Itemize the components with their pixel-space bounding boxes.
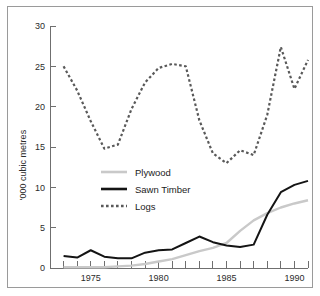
x-tick-label: 1990: [284, 273, 304, 283]
y-tick-label: 5: [40, 223, 45, 233]
chart-figure: 0510152025301975198019851990'000 cubic m…: [0, 0, 320, 296]
line-chart: 0510152025301975198019851990'000 cubic m…: [0, 0, 320, 296]
x-tick-label: 1975: [81, 273, 101, 283]
series-line-logs: [64, 47, 308, 163]
chart-legend: PlywoodSawn TimberLogs: [101, 167, 190, 212]
x-tick-label: 1985: [217, 273, 237, 283]
axes: [50, 26, 308, 268]
y-tick-label: 30: [35, 21, 45, 31]
y-tick-label: 10: [35, 183, 45, 193]
series-line-plywood: [64, 200, 308, 267]
y-tick-label: 20: [35, 102, 45, 112]
y-tick-label: 25: [35, 62, 45, 72]
x-tick-label: 1980: [149, 273, 169, 283]
y-tick-label: 15: [35, 142, 45, 152]
legend-label-plywood: Plywood: [135, 167, 171, 178]
y-tick-label: 0: [40, 263, 45, 273]
y-axis-title: '000 cubic metres: [18, 129, 28, 200]
data-series: [64, 47, 308, 267]
axis-labels: 0510152025301975198019851990'000 cubic m…: [18, 21, 304, 283]
legend-label-sawn-timber: Sawn Timber: [135, 184, 190, 195]
legend-label-logs: Logs: [135, 201, 156, 212]
